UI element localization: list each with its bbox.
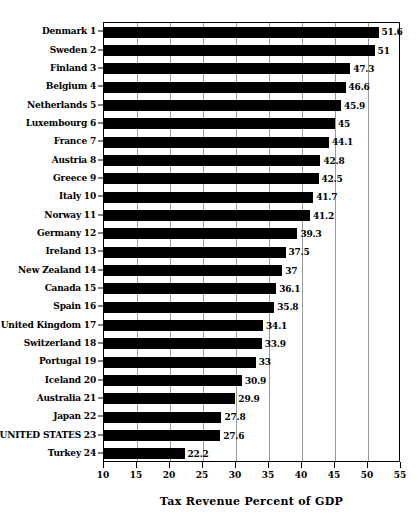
y-axis-tick — [98, 287, 103, 288]
y-axis-tick — [98, 159, 103, 160]
x-axis-tick — [202, 462, 203, 468]
y-axis-label: Canada 15 — [45, 283, 96, 293]
bar-row: 51.6 — [104, 27, 399, 38]
x-axis-tick — [301, 462, 302, 468]
bar-value-label: 30.9 — [245, 376, 266, 386]
x-axis-tick — [235, 462, 236, 468]
bar — [104, 27, 379, 38]
y-axis-label: Japan 22 — [53, 411, 96, 421]
x-axis-tick-label: 30 — [229, 470, 242, 480]
bar — [104, 247, 286, 258]
y-axis-label: Sweden 2 — [50, 45, 96, 55]
bar — [104, 375, 242, 386]
bar-row: 39.3 — [104, 228, 399, 239]
x-axis-tick-label: 15 — [130, 470, 143, 480]
bar-value-label: 33.9 — [265, 339, 286, 349]
bar-row: 47.3 — [104, 63, 399, 74]
bar — [104, 210, 310, 221]
bar-row: 45.9 — [104, 100, 399, 111]
bar — [104, 82, 346, 93]
y-axis-label: Finland 3 — [50, 63, 96, 73]
y-axis-tick — [98, 196, 103, 197]
y-axis-tick — [98, 214, 103, 215]
bar-row: 41.7 — [104, 192, 399, 203]
y-axis-tick — [98, 31, 103, 32]
bar — [104, 393, 235, 404]
y-axis-label: Denmark 1 — [42, 26, 96, 36]
bar-row: 36.1 — [104, 283, 399, 294]
bar — [104, 63, 350, 74]
x-axis: 10152025303540455055 — [103, 462, 400, 492]
y-axis-tick — [98, 232, 103, 233]
bars-layer: 51.65147.346.645.94544.142.842.541.741.2… — [104, 23, 399, 461]
bar-value-label: 44.1 — [332, 137, 353, 147]
bar-row: 41.2 — [104, 210, 399, 221]
y-axis-label: Luxembourg 6 — [26, 118, 96, 128]
bar — [104, 173, 319, 184]
y-axis-tick — [98, 49, 103, 50]
x-axis-tick-label: 40 — [295, 470, 308, 480]
bar — [104, 265, 282, 276]
bar-value-label: 37 — [285, 266, 297, 276]
y-axis-label: France 7 — [54, 136, 96, 146]
y-axis-label: Netherlands 5 — [27, 100, 96, 110]
bar-value-label: 39.3 — [300, 229, 321, 239]
y-axis-tick — [98, 86, 103, 87]
y-axis-label: Austria 8 — [52, 155, 96, 165]
bar-value-label: 22.2 — [188, 449, 209, 459]
bar-value-label: 35.8 — [277, 302, 298, 312]
bar — [104, 430, 220, 441]
bar-value-label: 47.3 — [353, 64, 374, 74]
bar — [104, 155, 320, 166]
y-axis-tick — [98, 397, 103, 398]
x-axis-title: Tax Revenue Percent of GDP — [103, 495, 400, 508]
bar — [104, 192, 313, 203]
y-axis-tick — [98, 361, 103, 362]
bar — [104, 118, 335, 129]
bar-value-label: 42.5 — [322, 174, 343, 184]
bar-value-label: 27.6 — [223, 431, 244, 441]
bar-row: 37.5 — [104, 247, 399, 258]
x-axis-tick-label: 50 — [361, 470, 374, 480]
y-axis-label: Portugal 19 — [39, 356, 96, 366]
y-axis-tick — [98, 104, 103, 105]
y-axis-tick — [98, 177, 103, 178]
bar-row: 22.2 — [104, 448, 399, 459]
bar — [104, 45, 375, 56]
bar-row: 44.1 — [104, 137, 399, 148]
y-axis-tick — [98, 306, 103, 307]
y-axis-tick — [98, 324, 103, 325]
bar-value-label: 51.6 — [382, 27, 403, 37]
y-axis-label: Ireland 13 — [46, 246, 96, 256]
bar-value-label: 34.1 — [266, 321, 287, 331]
y-axis-label: Switzerland 18 — [24, 338, 96, 348]
bar-row: 35.8 — [104, 302, 399, 313]
y-axis-tick — [98, 67, 103, 68]
bar-value-label: 41.2 — [313, 211, 334, 221]
bar — [104, 228, 297, 239]
bar-row: 33.9 — [104, 338, 399, 349]
y-axis-label: Italy 10 — [59, 191, 96, 201]
y-axis-label: Australia 21 — [37, 393, 96, 403]
bar-row: 37 — [104, 265, 399, 276]
y-axis-label: Turkey 24 — [48, 448, 96, 458]
bar-value-label: 41.7 — [316, 192, 337, 202]
bar — [104, 320, 263, 331]
y-axis-tick — [98, 434, 103, 435]
y-axis-tick — [98, 251, 103, 252]
y-axis-tick — [98, 416, 103, 417]
bar — [104, 448, 185, 459]
bar — [104, 412, 221, 423]
plot-area: 51.65147.346.645.94544.142.842.541.741.2… — [103, 22, 400, 462]
y-axis-tick — [98, 342, 103, 343]
bar-row: 34.1 — [104, 320, 399, 331]
bar — [104, 357, 256, 368]
y-axis-label: Germany 12 — [37, 228, 96, 238]
y-axis-label: Greece 9 — [53, 173, 96, 183]
x-axis-tick — [400, 462, 401, 468]
bar-value-label: 27.8 — [224, 412, 245, 422]
bar-row: 29.9 — [104, 393, 399, 404]
bar-value-label: 45.9 — [344, 101, 365, 111]
bar — [104, 283, 276, 294]
bar-value-label: 37.5 — [289, 247, 310, 257]
